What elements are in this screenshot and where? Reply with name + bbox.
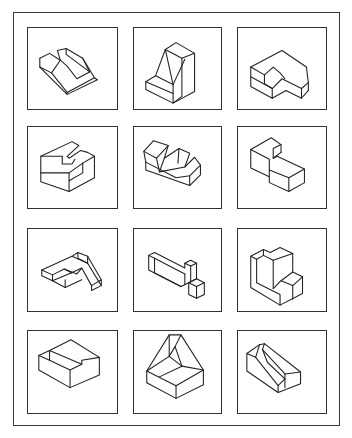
isometric-drawing-icon xyxy=(134,127,221,208)
isometric-drawing-icon xyxy=(134,331,221,413)
panel-8-channel-with-cubes: channel-with-cubes xyxy=(133,228,222,312)
isometric-drawing-icon xyxy=(238,331,326,413)
panel-9-stepped-wall-block: stepped-wall-block xyxy=(237,228,327,312)
isometric-drawing-icon xyxy=(238,127,326,208)
panel-11-pyramidal-frustum-block: pyramidal-frustum-block xyxy=(133,330,222,414)
panel-1-v-notched-wedge-block: v-notched-wedge-block xyxy=(27,27,118,110)
isometric-drawing-icon xyxy=(238,229,326,311)
panel-6-stepped-l-block: stepped-l-block xyxy=(237,126,327,209)
isometric-drawing-icon xyxy=(134,28,221,109)
panel-3-notched-hexagonal-block: notched-hexagonal-block xyxy=(237,27,327,110)
isometric-drawing-icon xyxy=(28,331,117,413)
isometric-drawing-icon xyxy=(134,229,221,311)
isometric-drawing-icon xyxy=(28,229,117,311)
isometric-drawing-icon xyxy=(238,28,326,109)
panel-4-t-slot-block: t-slot-block xyxy=(27,126,118,209)
panel-7-hollow-frame-with-ramp: hollow-frame-with-ramp xyxy=(27,228,118,312)
isometric-drawing-icon xyxy=(28,28,117,109)
panel-2-angled-bracket-block: angled-bracket-block xyxy=(133,27,222,110)
panel-5-v-trough-block: v-trough-block xyxy=(133,126,222,209)
panel-10-stepped-shelf-block: stepped-shelf-block xyxy=(27,330,118,414)
isometric-drawing-icon xyxy=(28,127,117,208)
panel-12-diagonal-slot-block: diagonal-slot-block xyxy=(237,330,327,414)
